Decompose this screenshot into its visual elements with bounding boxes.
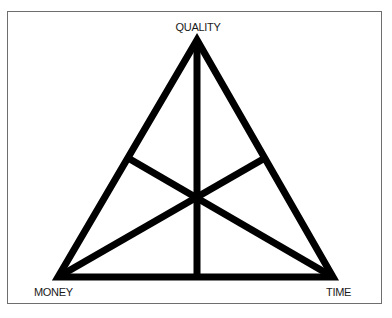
label-money: MONEY [34, 286, 73, 298]
label-quality: QUALITY [175, 21, 221, 33]
label-time: TIME [326, 286, 351, 298]
project-triangle-diagram [0, 0, 392, 318]
